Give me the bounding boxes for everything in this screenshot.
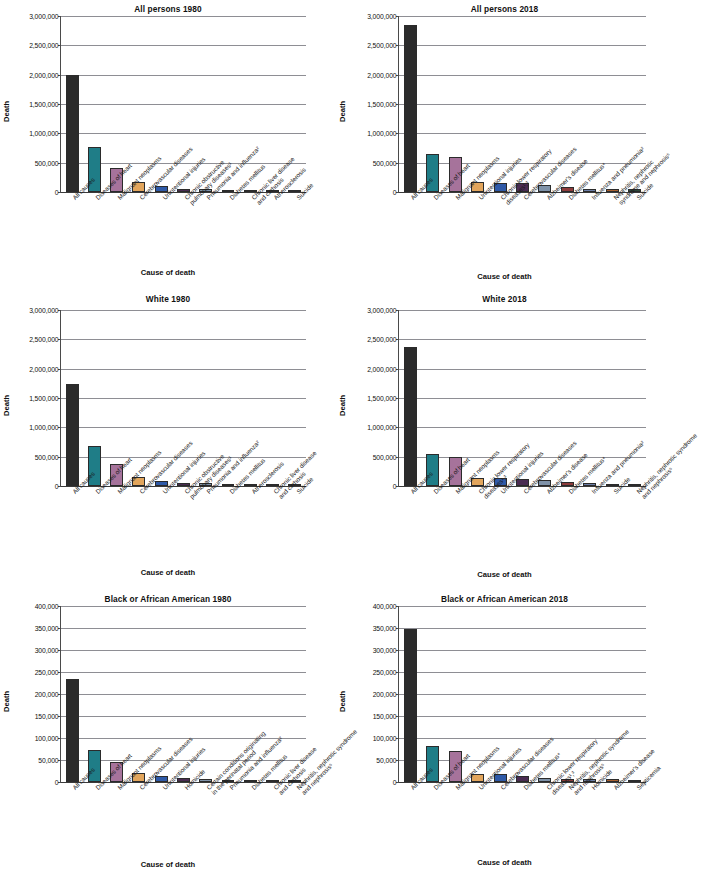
bar[interactable] xyxy=(66,75,79,192)
y-axis-label: Death xyxy=(338,101,347,122)
y-tick-label: 250,000 xyxy=(373,669,397,676)
y-tick-label: 2,000,000 xyxy=(29,71,58,78)
bar-slot xyxy=(421,606,443,782)
y-tick-label: 1,000,000 xyxy=(367,130,396,137)
y-tick-label: 500,000 xyxy=(373,453,397,460)
bar-slot xyxy=(399,16,421,192)
y-tick-label: 400,000 xyxy=(373,603,397,610)
bar[interactable] xyxy=(404,347,417,486)
x-axis-label: Cause of death xyxy=(0,568,336,577)
bar-series xyxy=(61,606,306,782)
bar-series xyxy=(61,310,306,486)
y-axis-label: Death xyxy=(2,691,11,712)
chart-panel-2: All persons 2018Death0500,0001,000,0001,… xyxy=(336,0,673,290)
bar-slot xyxy=(61,606,83,782)
y-axis-label: Death xyxy=(2,395,11,416)
y-tick-label: 200,000 xyxy=(373,691,397,698)
plot-area: 0500,0001,000,0001,500,0002,000,0002,500… xyxy=(60,310,306,486)
x-axis-label: Cause of death xyxy=(336,272,673,281)
y-axis-label: Death xyxy=(338,691,347,712)
y-axis-label: Death xyxy=(2,101,11,122)
y-tick-label: 400,000 xyxy=(35,603,59,610)
y-tick-label: 1,500,000 xyxy=(29,101,58,108)
chart-title: White 2018 xyxy=(336,294,673,304)
y-tick-label: 200,000 xyxy=(35,691,59,698)
y-tick-label: 1,500,000 xyxy=(29,395,58,402)
bar-slot xyxy=(83,16,105,192)
y-tick-label: 150,000 xyxy=(373,713,397,720)
y-tick-label: 350,000 xyxy=(35,625,59,632)
y-tick-label: 500,000 xyxy=(373,159,397,166)
bar-series xyxy=(399,16,646,192)
y-tick-label: 300,000 xyxy=(373,647,397,654)
y-tick-label: 0 xyxy=(55,189,59,196)
x-axis-label: Cause of death xyxy=(336,570,673,579)
bar-slot xyxy=(399,310,421,486)
y-tick-label: 500,000 xyxy=(35,453,59,460)
y-tick-label: 1,000,000 xyxy=(29,424,58,431)
bar[interactable] xyxy=(66,679,79,782)
y-tick-label: 0 xyxy=(55,779,59,786)
y-tick-label: 350,000 xyxy=(373,625,397,632)
y-tick-label: 100,000 xyxy=(35,735,59,742)
y-tick-label: 100,000 xyxy=(373,735,397,742)
bar-slot xyxy=(83,606,105,782)
y-tick-label: 1,500,000 xyxy=(367,101,396,108)
bar-slot xyxy=(399,606,421,782)
y-tick-label: 2,500,000 xyxy=(367,336,396,343)
y-tick-label: 2,500,000 xyxy=(29,336,58,343)
y-tick-label: 3,000,000 xyxy=(29,307,58,314)
y-tick-label: 2,500,000 xyxy=(29,42,58,49)
chart-panel-1: All persons 1980Death0500,0001,000,0001,… xyxy=(0,0,336,290)
x-axis-label: Cause of death xyxy=(336,858,673,867)
y-tick-label: 250,000 xyxy=(35,669,59,676)
y-tick-label: 0 xyxy=(393,189,397,196)
y-tick-label: 2,000,000 xyxy=(367,71,396,78)
y-tick-label: 3,000,000 xyxy=(367,307,396,314)
y-axis-label: Death xyxy=(338,395,347,416)
y-tick-label: 50,000 xyxy=(38,757,58,764)
bar-series xyxy=(61,16,306,192)
bar[interactable] xyxy=(404,25,417,192)
bar-slot xyxy=(421,16,443,192)
y-tick-label: 500,000 xyxy=(35,159,59,166)
y-tick-label: 3,000,000 xyxy=(367,13,396,20)
chart-panel-3: White 1980Death0500,0001,000,0001,500,00… xyxy=(0,290,336,590)
y-tick-label: 0 xyxy=(393,483,397,490)
y-tick-label: 150,000 xyxy=(35,713,59,720)
plot-area: 050,000100,000150,000200,000250,000300,0… xyxy=(60,606,306,782)
y-tick-label: 50,000 xyxy=(376,757,396,764)
bar-slot xyxy=(61,16,83,192)
y-tick-label: 3,000,000 xyxy=(29,13,58,20)
chart-panel-5: Black or African American 1980Death050,0… xyxy=(0,590,336,879)
bar-slot xyxy=(83,310,105,486)
x-axis-label: Cause of death xyxy=(0,860,336,869)
y-tick-label: 0 xyxy=(393,779,397,786)
y-tick-label: 2,500,000 xyxy=(367,42,396,49)
y-tick-label: 2,000,000 xyxy=(29,365,58,372)
chart-panel-4: White 2018Death0500,0001,000,0001,500,00… xyxy=(336,290,673,590)
y-tick-label: 1,000,000 xyxy=(367,424,396,431)
bar[interactable] xyxy=(404,629,417,782)
y-tick-label: 1,000,000 xyxy=(29,130,58,137)
plot-area: 0500,0001,000,0001,500,0002,000,0002,500… xyxy=(398,16,646,192)
y-tick-label: 1,500,000 xyxy=(367,395,396,402)
chart-title: White 1980 xyxy=(0,294,336,304)
y-tick-label: 0 xyxy=(55,483,59,490)
y-tick-label: 2,000,000 xyxy=(367,365,396,372)
plot-area: 0500,0001,000,0001,500,0002,000,0002,500… xyxy=(60,16,306,192)
bar-slot xyxy=(61,310,83,486)
x-axis-label: Cause of death xyxy=(0,268,336,277)
chart-panel-6: Black or African American 2018Death050,0… xyxy=(336,590,673,879)
bar[interactable] xyxy=(66,384,79,486)
y-tick-label: 300,000 xyxy=(35,647,59,654)
bar-slot xyxy=(421,310,443,486)
